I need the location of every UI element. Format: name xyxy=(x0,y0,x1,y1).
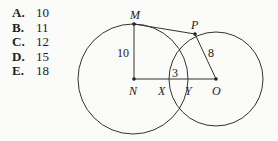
length-po: 8 xyxy=(208,46,214,60)
label-y: Y xyxy=(185,84,193,98)
label-o: O xyxy=(212,84,221,98)
point-m xyxy=(132,22,136,26)
length-xy: 3 xyxy=(172,66,178,80)
label-m: M xyxy=(129,8,141,22)
point-n xyxy=(132,77,136,81)
label-n: N xyxy=(128,84,138,98)
point-p xyxy=(193,32,197,36)
label-p: P xyxy=(190,18,199,32)
label-x: X xyxy=(157,84,166,98)
geometry-diagram: M P N X Y O 10 8 3 xyxy=(0,0,278,141)
point-o xyxy=(214,77,218,81)
length-mn: 10 xyxy=(117,46,129,60)
segment-mp xyxy=(134,24,195,34)
